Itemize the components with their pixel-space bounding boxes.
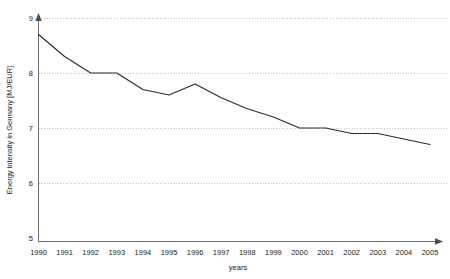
y-tick-label: 6 [29,179,33,188]
x-tick-label: 2004 [396,248,413,257]
x-tick-label: 2001 [317,248,334,257]
x-tick-label: 1993 [108,248,125,257]
x-tick-label: 1999 [265,248,282,257]
y-tick-label: 8 [29,69,33,78]
chart-container: 56789 1990199119921993199419951996199719… [0,0,450,279]
y-tick-label: 7 [29,124,33,133]
x-tick-label: 1990 [30,248,47,257]
x-tick-label: 1994 [135,248,152,257]
x-tick-label: 2003 [369,248,386,257]
gridlines-group [39,18,448,183]
x-tick-label: 1997 [213,248,230,257]
x-axis-arrow-icon [435,238,443,244]
x-tick-labels-group: 1990199119921993199419951996199719981999… [30,248,438,257]
x-tick-label: 1996 [187,248,204,257]
x-tick-label: 2000 [291,248,308,257]
line-chart: 56789 1990199119921993199419951996199719… [0,0,450,279]
x-tick-label: 2002 [343,248,360,257]
y-axis-arrow-icon [35,13,41,21]
y-axis-title: Energy intensity in Germany [MJ/EUR] [5,66,14,194]
y-tick-label: 9 [29,14,33,23]
x-tick-label: 1995 [161,248,178,257]
y-tick-labels-group: 56789 [29,14,33,243]
y-tick-label: 5 [29,234,33,243]
x-tick-label: 1992 [82,248,99,257]
axes-group [35,13,443,245]
x-tick-label: 1998 [239,248,256,257]
x-tick-label: 2005 [422,248,439,257]
x-tick-label: 1991 [56,248,73,257]
x-axis-title: years [229,263,248,272]
